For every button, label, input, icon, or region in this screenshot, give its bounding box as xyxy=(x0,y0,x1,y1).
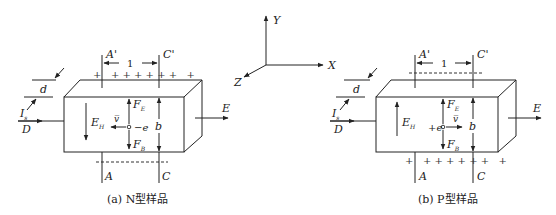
z-axis-label: Z xyxy=(233,76,242,89)
block-front-face xyxy=(64,97,184,152)
external-field-label: E xyxy=(221,102,230,115)
label-c: C xyxy=(162,170,171,183)
current-label: Is xyxy=(19,107,27,121)
z-axis-arrow xyxy=(244,65,266,77)
caption-p-type: (b) P型样品 xyxy=(418,192,478,206)
thickness-label: d xyxy=(353,83,360,96)
label-a-prime: A' xyxy=(105,48,117,61)
label-c-prime: C' xyxy=(477,48,488,61)
hall-field-label: EH xyxy=(90,116,105,130)
electrode-d-label: D xyxy=(21,123,31,136)
thickness-label: d xyxy=(40,83,47,96)
figure-n-type: 1 A' C' + + + + + + + + A C d Is D E EH … xyxy=(18,48,230,206)
x-axis-label: X xyxy=(327,59,337,72)
current-label: Is xyxy=(331,107,339,121)
charge-label: +e xyxy=(428,122,442,133)
figure-p-type: 1 A' C' + + + + + + + + A C d Is D E EH … xyxy=(330,48,541,206)
thickness-arrow-top xyxy=(55,68,64,78)
height-label: b xyxy=(469,120,476,133)
length-label: 1 xyxy=(127,58,133,69)
force-electric-label: FE xyxy=(132,98,146,112)
thickness-arrow-bottom xyxy=(340,99,349,110)
velocity-label: v̅ xyxy=(453,114,458,124)
bottom-positive-charges: + + + + + + + + xyxy=(405,155,507,166)
top-positive-charges: + + + + + + + + xyxy=(93,69,195,80)
electrode-d-label: D xyxy=(333,123,343,136)
hall-field-label: EH xyxy=(401,116,416,130)
caption-n-type: (a) N型样品 xyxy=(107,192,168,206)
block-side-face xyxy=(498,80,516,152)
height-label: b xyxy=(155,120,162,133)
block-top-face xyxy=(64,80,202,97)
y-axis-label: Y xyxy=(273,14,282,27)
thickness-arrow-top xyxy=(368,68,377,78)
force-electric-label: FE xyxy=(446,98,460,112)
external-field-label: E xyxy=(532,102,541,115)
label-c: C xyxy=(477,170,486,183)
label-a-prime: A' xyxy=(418,48,430,61)
label-a: A xyxy=(418,170,427,183)
label-a: A xyxy=(104,170,113,183)
charge-label: −e xyxy=(134,122,148,133)
length-label: 1 xyxy=(441,58,447,69)
coordinate-axes: Y X Z xyxy=(233,14,337,89)
hall-effect-diagram: 1 A' C' + + + + + + + + A C d Is D E EH … xyxy=(0,0,556,215)
block-side-face xyxy=(184,80,202,152)
force-magnetic-label: FB xyxy=(446,138,460,152)
velocity-label: v̅ xyxy=(114,114,119,124)
block-top-face xyxy=(376,80,516,97)
electron-carrier xyxy=(127,125,131,129)
force-magnetic-label: FB xyxy=(132,138,146,152)
thickness-arrow-bottom xyxy=(27,99,36,110)
label-c-prime: C' xyxy=(163,48,174,61)
